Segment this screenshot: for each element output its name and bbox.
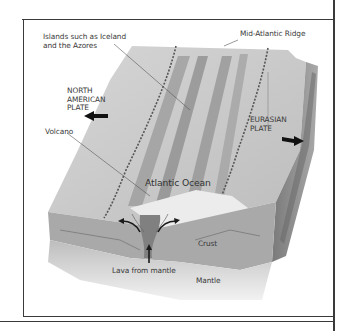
ridge-label: Mid-Atlantic Ridge xyxy=(240,30,305,39)
north-american-plate-label: NORTH AMERICAN PLATE xyxy=(67,87,105,113)
islands-label: Islands such as Iceland and the Azores xyxy=(43,33,126,50)
crust-label: Crust xyxy=(198,240,217,249)
ocean-label: Atlantic Ocean xyxy=(145,179,211,188)
lava-label: Lava from mantle xyxy=(112,267,176,276)
mantle-label: Mantle xyxy=(196,277,221,286)
volcano-label: Volcano xyxy=(45,128,73,137)
ridge-leader-line xyxy=(224,40,238,46)
eurasian-plate-label: EURASIAN PLATE xyxy=(250,116,287,133)
